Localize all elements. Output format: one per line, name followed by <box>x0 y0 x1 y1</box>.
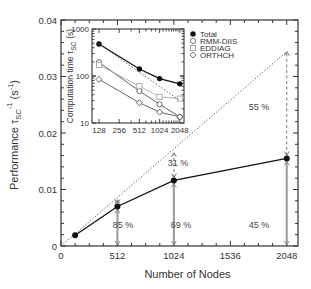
efficiency-label: 69 % <box>171 220 192 230</box>
x-tick-label: 1536 <box>220 250 241 261</box>
inset-y-tick-label: 10 <box>80 119 89 128</box>
data-point <box>72 232 78 238</box>
x-tick-label: 1024 <box>163 250 184 261</box>
data-point <box>284 155 290 161</box>
legend-label: ORTHCH <box>200 51 234 60</box>
inset-plot: 12825651210242048101001000Computation ti… <box>65 25 189 135</box>
inset-x-tick-label: 1024 <box>151 126 169 135</box>
y-tick-label: 0.04 <box>39 15 58 26</box>
x-tick-label: 0 <box>58 250 63 261</box>
inset-legend: TotalRMM-DIISEDDIAGORTHCH <box>190 30 237 60</box>
inset-y-tick-label: 100 <box>76 72 90 81</box>
x-tick-label: 512 <box>110 250 126 261</box>
data-point <box>171 177 177 183</box>
data-point <box>114 203 120 209</box>
y-axis-title: Performance τSC-1(s-1) <box>5 80 23 190</box>
efficiency-arrow <box>284 52 289 245</box>
inset-x-tick-label: 2048 <box>171 126 189 135</box>
efficiency-label: 45 % <box>249 220 270 230</box>
y-tick-label: 0 <box>52 241 57 252</box>
x-tick-label: 2048 <box>276 250 297 261</box>
y-tick-label: 0.02 <box>39 128 58 139</box>
x-axis-title: Number of Nodes <box>144 268 231 280</box>
inset-x-tick-label: 512 <box>133 126 147 135</box>
efficiency-label: 31 % <box>168 158 189 168</box>
inset-frame <box>92 29 184 123</box>
inset-x-tick-label: 256 <box>113 126 127 135</box>
inset-y-axis-title: Computation time τSC(s) <box>65 29 77 123</box>
performance-chart: 051210241536204800.010.020.030.04Number … <box>0 0 311 289</box>
y-tick-label: 0.01 <box>39 184 58 195</box>
chart-canvas: 051210241536204800.010.020.030.04Number … <box>0 0 311 289</box>
y-tick-label: 0.03 <box>39 71 58 82</box>
efficiency-label: 55 % <box>249 102 270 112</box>
legend-item: ORTHCH <box>190 51 234 60</box>
inset-x-tick-label: 128 <box>92 126 106 135</box>
efficiency-label: 85 % <box>113 220 134 230</box>
